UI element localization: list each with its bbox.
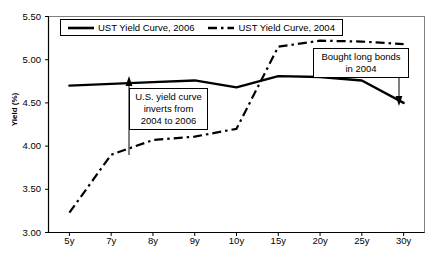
legend-swatch-dashdot-icon [208, 23, 234, 33]
annotation-invert: U.S. yield curve inverts from 2004 to 20… [129, 88, 208, 130]
yield-curve-chart: Yield (%) 5.505.004.504.003.503.00 5y7y8… [0, 0, 434, 265]
legend-entry-ust-2006: UST Yield Curve, 2006 [68, 23, 194, 33]
annotation-bought-line-2: in 2004 [318, 63, 404, 75]
legend-entry-ust-2004: UST Yield Curve, 2004 [208, 23, 334, 33]
plot-area [0, 0, 434, 265]
annotation-bought-long-bonds: Bought long bonds in 2004 [313, 48, 409, 78]
legend-label-ust-2004: UST Yield Curve, 2004 [238, 23, 334, 33]
annotation-invert-line-3: 2004 to 2006 [134, 115, 203, 127]
legend-swatch-solid-icon [68, 23, 94, 33]
legend-label-ust-2006: UST Yield Curve, 2006 [98, 23, 194, 33]
annotation-invert-line-2: inverts from [134, 103, 203, 115]
annotation-invert-line-1: U.S. yield curve [134, 91, 203, 103]
chart-legend: UST Yield Curve, 2006 UST Yield Curve, 2… [60, 19, 343, 36]
annotation-bought-line-1: Bought long bonds [318, 51, 404, 63]
